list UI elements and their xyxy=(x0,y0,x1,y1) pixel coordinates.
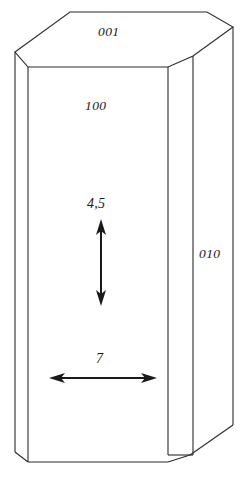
dimension-label-width: 7 xyxy=(96,351,103,367)
face-label-010: 010 xyxy=(199,246,220,262)
dimension-label-height: 4,5 xyxy=(87,196,105,212)
crystal-figure: 001 100 010 4,5 7 xyxy=(0,0,252,480)
left-sliver-face-fill xyxy=(15,52,28,462)
face-label-100: 100 xyxy=(85,98,106,114)
crystal-drawing xyxy=(0,0,252,480)
face-label-001: 001 xyxy=(98,24,119,40)
far-right-face-fill xyxy=(190,27,233,455)
right-face-fill xyxy=(168,56,193,455)
front-face-fill xyxy=(28,67,190,462)
